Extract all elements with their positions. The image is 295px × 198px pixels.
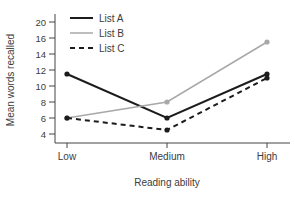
chart-canvas: Reading ability Mean words recalled 2016… xyxy=(0,0,295,198)
y-tick-label: 10 xyxy=(35,81,46,92)
y-tick-label: 8 xyxy=(41,97,46,108)
data-point-marker xyxy=(64,115,69,120)
x-category-label: High xyxy=(257,151,278,162)
line-chart: Reading ability Mean words recalled 2016… xyxy=(0,0,295,198)
x-category-label: Medium xyxy=(149,151,185,162)
series-line-list-a xyxy=(67,74,267,118)
x-category-label: Low xyxy=(58,151,77,162)
y-tick-label: 6 xyxy=(41,113,46,124)
data-point-marker xyxy=(64,71,69,76)
legend-label: List B xyxy=(99,28,124,39)
chart-legend: List AList BList C xyxy=(70,13,125,54)
series-line-list-b xyxy=(67,42,267,118)
y-tick-label: 12 xyxy=(35,65,46,76)
data-point-marker xyxy=(164,127,169,132)
data-point-marker xyxy=(264,39,269,44)
y-axis-ticks: 2016141210864 xyxy=(35,17,55,140)
data-point-marker xyxy=(164,115,169,120)
chart-series xyxy=(64,39,269,132)
y-tick-label: 16 xyxy=(35,33,46,44)
y-axis-title: Mean words recalled xyxy=(5,34,16,126)
x-axis-ticks: LowMediumHigh xyxy=(58,143,277,162)
data-point-marker xyxy=(164,99,169,104)
x-axis-title: Reading ability xyxy=(134,177,200,188)
y-tick-label: 4 xyxy=(41,129,46,140)
y-tick-label: 14 xyxy=(35,49,46,60)
legend-label: List C xyxy=(99,43,125,54)
y-tick-label: 20 xyxy=(35,17,46,28)
data-point-marker xyxy=(264,75,269,80)
legend-label: List A xyxy=(99,13,124,24)
